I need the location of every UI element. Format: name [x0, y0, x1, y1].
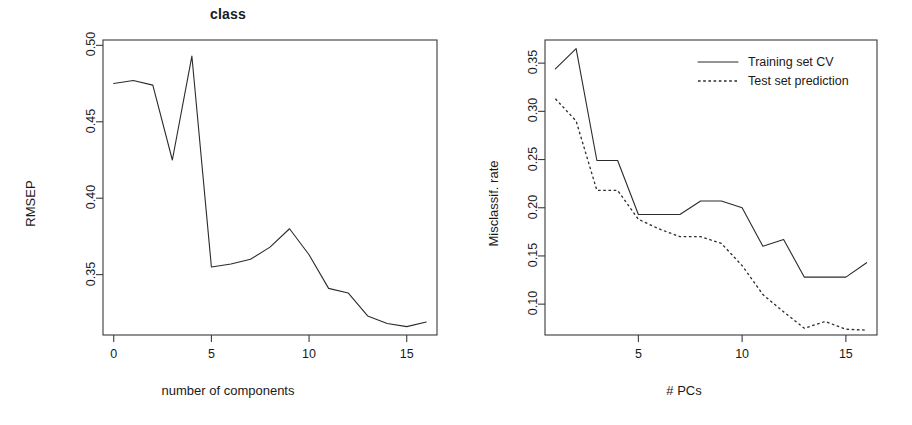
legend-key-solid-line: [697, 56, 739, 68]
x-axis-title: # PCs: [456, 383, 912, 398]
y-tick-label: 0.35: [84, 259, 98, 289]
figure-container: class 0.50 0.45 0.40 0.35 0 5 10 15 RMSE…: [0, 0, 912, 425]
y-tick-label: 0.40: [84, 182, 98, 212]
chart-panel-misclassification: 0.35 0.30 0.25 0.20 0.15 0.10 5 10 15 Mi…: [456, 0, 912, 425]
y-tick-label: 0.35: [526, 47, 540, 77]
x-tick-label: 15: [400, 347, 414, 361]
y-tick-label: 0.45: [84, 106, 98, 136]
legend-item-test-set-prediction: Test set prediction: [697, 71, 849, 90]
legend: Training set CV Test set prediction: [697, 52, 849, 90]
x-axis-title: number of components: [0, 383, 456, 398]
chart-panel-class: class 0.50 0.45 0.40 0.35 0 5 10 15 RMSE…: [0, 0, 456, 425]
legend-key-dashed-line: [697, 75, 739, 87]
y-axis-title: RMSEP: [23, 149, 38, 259]
y-tick-label: 0.10: [526, 288, 540, 318]
x-tick-label: 10: [302, 347, 316, 361]
y-tick-label: 0.20: [526, 192, 540, 222]
x-tick-label: 0: [110, 347, 117, 361]
plot-area-rmsep: [0, 0, 456, 425]
legend-label: Training set CV: [748, 55, 834, 69]
x-tick-label: 5: [635, 347, 642, 361]
y-tick-label: 0.15: [526, 240, 540, 270]
legend-label: Test set prediction: [748, 74, 849, 88]
x-tick-label: 5: [208, 347, 215, 361]
y-tick-label: 0.50: [84, 29, 98, 59]
x-tick-label: 15: [839, 347, 853, 361]
y-tick-label: 0.25: [526, 144, 540, 174]
legend-item-training-set-cv: Training set CV: [697, 52, 849, 71]
x-tick-label: 10: [735, 347, 749, 361]
y-tick-label: 0.30: [526, 95, 540, 125]
y-axis-title: Misclassif. rate: [486, 129, 501, 279]
